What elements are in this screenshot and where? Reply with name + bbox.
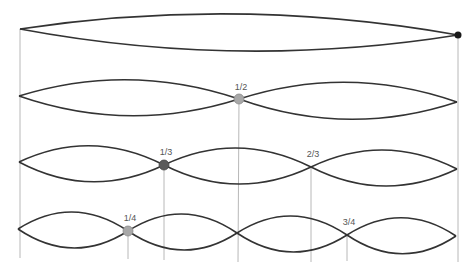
wave-lower (20, 29, 458, 51)
node-end-dot (455, 32, 462, 39)
label-third: 1/3 (160, 147, 173, 157)
row-harmonic-3: 1/3 2/3 (19, 146, 457, 186)
label-three-quarters: 3/4 (343, 217, 356, 227)
node-half-dot (234, 94, 244, 104)
guide-half (238, 99, 239, 262)
wave-upper (20, 14, 458, 35)
row-harmonic-2: 1/2 (19, 80, 457, 120)
label-two-thirds: 2/3 (307, 149, 320, 159)
row-harmonic-4: 1/4 3/4 (18, 212, 456, 254)
label-quarter: 1/4 (124, 213, 137, 223)
node-quarter-dot (123, 226, 133, 236)
label-half: 1/2 (235, 82, 248, 92)
row-harmonic-1 (20, 14, 462, 51)
wave-lower (18, 229, 456, 254)
harmonics-diagram: 1/2 1/3 2/3 1/4 3/4 (0, 0, 475, 276)
wave-upper (19, 146, 457, 169)
node-third-dot (159, 160, 169, 170)
